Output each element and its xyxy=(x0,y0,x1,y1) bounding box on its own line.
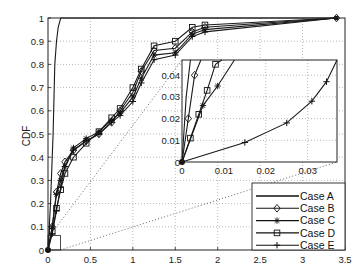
y-tick-label: 0.9 xyxy=(31,36,44,47)
x-tick-label: 0.5 xyxy=(84,254,97,265)
x-tick-label: 1.5 xyxy=(169,254,182,265)
inset-y-tick-label: 0.03 xyxy=(162,91,181,102)
y-tick-label: 0.7 xyxy=(31,82,44,93)
y-axis-label: CDF xyxy=(21,126,32,147)
legend-label: Case A xyxy=(300,190,334,202)
inset-plot: 00.010.020.0300.010.020.030.04 xyxy=(162,60,338,176)
y-tick-label: 0 xyxy=(39,245,44,256)
x-tick-label: 0 xyxy=(45,254,50,265)
x-tick-label: 3.5 xyxy=(338,254,351,265)
legend-label: Case E xyxy=(300,239,334,251)
x-tick-label: 3 xyxy=(300,254,305,265)
inset-x-tick-label: 0.01 xyxy=(215,165,234,176)
cdf-chart: 00.511.522.533.500.10.20.30.40.50.60.70.… xyxy=(0,0,357,276)
x-tick-label: 2.5 xyxy=(254,254,267,265)
inset-y-tick-label: 0 xyxy=(175,157,180,168)
legend-label: Case B xyxy=(300,202,334,214)
legend-label: Case C xyxy=(300,214,335,226)
inset-y-tick-label: 0.01 xyxy=(162,135,181,146)
y-tick-label: 0.5 xyxy=(31,129,44,140)
y-tick-label: 0.3 xyxy=(31,175,44,186)
y-tick-label: 1 xyxy=(39,13,44,24)
y-tick-label: 0.4 xyxy=(31,152,44,163)
legend: Case ACase BCase CCase DCase E xyxy=(252,183,345,251)
x-tick-label: 1 xyxy=(130,254,135,265)
legend-label: Case D xyxy=(300,227,335,239)
inset-x-tick-label: 0 xyxy=(179,165,184,176)
inset-y-tick-label: 0.04 xyxy=(162,70,181,81)
inset-y-tick-label: 0.02 xyxy=(162,113,181,124)
x-tick-label: 2 xyxy=(215,254,220,265)
inset-x-tick-label: 0.02 xyxy=(257,165,276,176)
y-tick-label: 0.6 xyxy=(31,105,44,116)
inset-x-tick-label: 0.03 xyxy=(298,165,317,176)
y-tick-label: 0.1 xyxy=(31,221,44,232)
y-tick-label: 0.8 xyxy=(31,59,44,70)
y-tick-label: 0.2 xyxy=(31,198,44,209)
